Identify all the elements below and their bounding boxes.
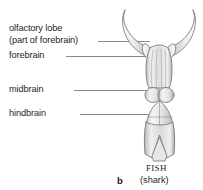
label-olfactory-lobe: olfactory lobe (part of forebrain) [9, 23, 78, 46]
label-olfactory-lobe-line2: (part of forebrain) [9, 35, 78, 47]
label-hindbrain: hindbrain [9, 108, 46, 120]
forebrain-cerebrum [146, 45, 172, 88]
shark-brain-illustration [119, 4, 199, 162]
midbrain-optic-lobe-right [158, 88, 174, 103]
label-olfactory-lobe-line1: olfactory lobe [9, 23, 78, 35]
figure-shark-brain-diagram: olfactory lobe (part of forebrain) foreb… [0, 0, 203, 190]
label-midbrain: midbrain [9, 84, 43, 96]
label-forebrain: forebrain [9, 50, 44, 62]
specimen-title: FISH [146, 163, 167, 173]
panel-letter: b [117, 175, 123, 186]
specimen-subtitle: (shark) [140, 175, 169, 185]
